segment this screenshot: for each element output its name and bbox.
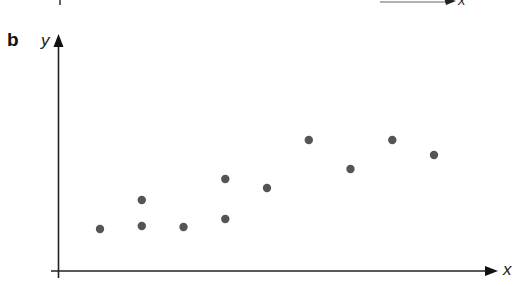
data-point (263, 184, 271, 192)
scatter-plot (0, 0, 517, 286)
data-point (221, 215, 229, 223)
data-point (138, 222, 146, 230)
panel-label: b (7, 29, 19, 51)
data-point (346, 165, 354, 173)
x-axis-label: x (503, 260, 512, 280)
data-points (96, 136, 438, 233)
data-point (179, 223, 187, 231)
data-point (305, 136, 313, 144)
previous-panel-remnant (60, 0, 456, 5)
previous-panel-x-label: x (458, 0, 466, 8)
y-axis-label: y (41, 31, 50, 51)
x-axis-arrow-icon (485, 266, 498, 276)
data-point (138, 196, 146, 204)
data-point (430, 151, 438, 159)
y-axis-arrow-icon (54, 34, 64, 47)
data-point (96, 225, 104, 233)
data-point (388, 136, 396, 144)
data-point (221, 175, 229, 183)
